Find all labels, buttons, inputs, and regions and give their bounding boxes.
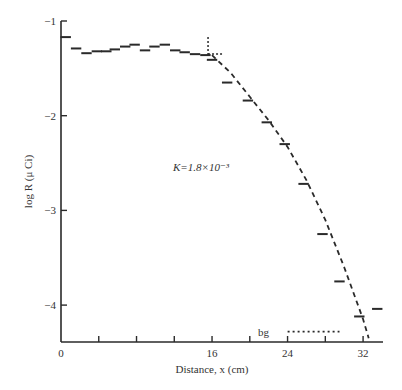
fit-curve: [212, 55, 369, 338]
chart-container: −1−2−3−40162432Distance, x (cm)log R (μ …: [0, 0, 402, 390]
x-tick-label: 16: [207, 347, 219, 359]
y-tick-label: −3: [44, 204, 56, 216]
x-tick-label: 24: [282, 347, 294, 359]
y-axis-label: log R (μ Ci): [22, 155, 35, 209]
x-axis-label: Distance, x (cm): [176, 363, 249, 376]
chart-svg: −1−2−3−40162432Distance, x (cm)log R (μ …: [0, 0, 402, 390]
background-label: bg: [258, 326, 270, 338]
y-tick-label: −2: [44, 110, 56, 122]
x-tick-label: 0: [58, 347, 64, 359]
y-tick-label: −1: [44, 15, 56, 27]
y-tick-label: −4: [44, 299, 56, 311]
x-tick-label: 32: [358, 347, 369, 359]
annotation-k: K=1.8×10⁻³: [172, 161, 230, 173]
